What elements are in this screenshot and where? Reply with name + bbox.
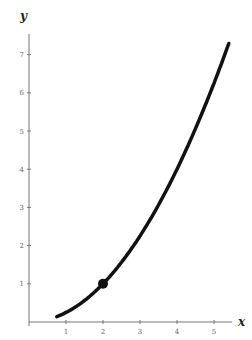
y-tick-label: 1 [20, 280, 24, 288]
y-tick-label: 4 [20, 166, 25, 174]
curve [57, 44, 229, 317]
highlighted-point [98, 279, 108, 289]
x-tick-label: 2 [101, 328, 105, 336]
y-axis-label: y [19, 9, 28, 23]
y-tick-label: 6 [20, 89, 25, 97]
chart: 123451234567 x y [0, 0, 252, 340]
y-tick-label: 2 [20, 242, 24, 250]
x-tick-label: 5 [212, 328, 216, 336]
x-tick-label: 1 [64, 328, 68, 336]
y-tick-label: 7 [20, 51, 24, 59]
y-tick-label: 5 [20, 128, 24, 136]
x-axis-label: x [237, 315, 246, 329]
x-tick-label: 4 [175, 328, 180, 336]
x-tick-label: 3 [138, 328, 142, 336]
y-tick-label: 3 [20, 204, 24, 212]
